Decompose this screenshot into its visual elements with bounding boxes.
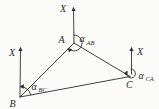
azimuth-arc-ca xyxy=(126,69,135,78)
axis-label-c: X xyxy=(136,46,144,57)
angle-label-bc-symbol: α xyxy=(32,81,38,92)
vertex-label-b: B xyxy=(10,98,16,109)
triangle-side-ca xyxy=(74,43,130,77)
diagram-canvas: X X X A B C α AB α BC α CA xyxy=(0,0,159,108)
vertex-label-c: C xyxy=(126,79,133,90)
x-axis-arrow-b xyxy=(20,48,21,97)
axis-label-b: X xyxy=(8,47,16,58)
azimuth-triangle-diagram: X X X A B C α AB α BC α CA xyxy=(0,0,159,108)
angle-label-ab-subscript: AB xyxy=(86,39,95,46)
vertex-label-a: A xyxy=(58,34,66,45)
angle-label-ab-symbol: α xyxy=(80,33,86,44)
angle-label-ca-symbol: α xyxy=(139,70,145,81)
axis-label-a: X xyxy=(59,3,67,14)
x-axis-arrow-a xyxy=(74,8,75,43)
angle-label-ca-subscript: CA xyxy=(146,75,154,82)
angle-label-bc-subscript: BC xyxy=(39,86,48,93)
